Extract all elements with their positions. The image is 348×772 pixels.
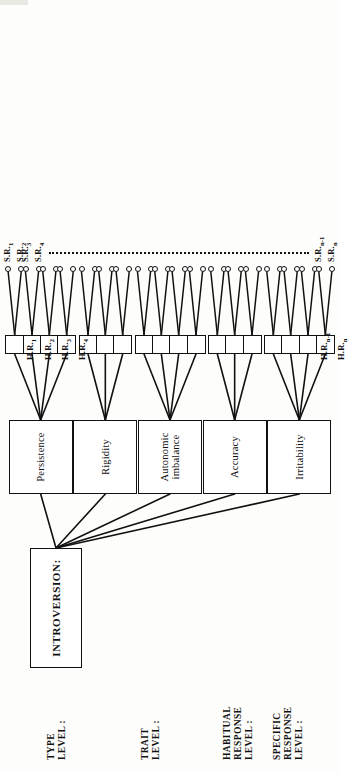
trait-node-irritability[interactable]: Irritability [267, 420, 331, 494]
specific-response-circle[interactable] [169, 266, 175, 272]
specific-response-label: S.R.3 [20, 243, 32, 262]
specific-response-label-subscript: n-1 [318, 236, 325, 246]
specific-response-label-subscript: 4 [37, 243, 44, 246]
habitual-response-label-subscript: n [341, 338, 348, 342]
specific-response-circle[interactable] [23, 266, 29, 272]
habitual-response-box[interactable] [5, 335, 24, 354]
type-level-label: TYPE LEVEL : [46, 690, 68, 760]
habitual-response-label-base: H.R. [43, 342, 53, 360]
habitual-response-label: H.R.1 [25, 339, 37, 360]
habitual-response-label-subscript: 3 [65, 339, 72, 342]
specific-response-circle[interactable] [299, 266, 305, 272]
habitual-response-box[interactable] [208, 335, 227, 354]
habitual-response-box[interactable] [96, 335, 115, 354]
trait-node-label: Autonomic imbalance [159, 432, 182, 481]
specific-response-label: S.R.4 [33, 243, 45, 262]
specific-response-circle[interactable] [5, 266, 11, 272]
trait-node-autonomic-imbalance[interactable]: Autonomic imbalance [138, 420, 202, 494]
habitual-response-box[interactable] [243, 335, 262, 354]
trait-node-label: Persistence [35, 432, 47, 481]
specific-response-label-subscript: n [331, 242, 338, 246]
specific-response-circle[interactable] [200, 266, 206, 272]
specific-response-circle[interactable] [264, 266, 270, 272]
habitual-response-label: H.R.3 [60, 339, 72, 360]
habitual-response-label: H.R.n-1 [319, 333, 331, 360]
specific-response-level-label: SPECIFIC RESPONSE LEVEL : [272, 682, 305, 760]
specific-response-circle[interactable] [208, 266, 214, 272]
trait-node-persistence[interactable]: Persistence [9, 420, 73, 494]
specific-response-circle[interactable] [243, 266, 249, 272]
specific-response-circle[interactable] [187, 266, 193, 272]
habitual-response-label-base: H.R. [319, 342, 329, 360]
habitual-response-box[interactable] [135, 335, 154, 354]
specific-response-circle[interactable] [135, 266, 141, 272]
specific-response-label-base: S.R. [20, 246, 30, 262]
habitual-response-label-base: H.R. [336, 342, 346, 360]
trait-node-label: Irritability [294, 434, 306, 480]
specific-response-label-base: S.R. [326, 246, 336, 262]
specific-response-circle[interactable] [152, 266, 158, 272]
specific-response-circle[interactable] [70, 266, 76, 272]
specific-response-circle[interactable] [281, 266, 287, 272]
specific-response-circle[interactable] [329, 266, 335, 272]
specific-response-label: S.R.n-1 [313, 236, 325, 262]
specific-response-circle[interactable] [256, 266, 262, 272]
specific-response-circle[interactable] [96, 266, 102, 272]
habitual-response-label-subscript: 4 [82, 339, 89, 342]
specific-response-label: S.R.1 [2, 243, 14, 262]
specific-response-circle[interactable] [225, 266, 231, 272]
specific-response-circle[interactable] [40, 266, 46, 272]
trait-node-label: Accuracy [229, 436, 241, 478]
specific-response-circle[interactable] [79, 266, 85, 272]
habitual-response-label-subscript: 1 [30, 339, 37, 342]
trait-level-label: TRAIT LEVEL : [140, 690, 162, 760]
specific-response-label-subscript: 1 [7, 243, 14, 246]
type-node-introversion[interactable]: INTROVERSION: [30, 548, 82, 668]
habitual-response-label-base: H.R. [60, 342, 70, 360]
trait-node-label: Rigidity [100, 439, 112, 475]
specific-response-label: S.R.n [326, 242, 338, 262]
habitual-response-label: H.R.4 [77, 339, 89, 360]
specific-response-label-base: S.R. [313, 246, 323, 262]
specific-response-circle[interactable] [113, 266, 119, 272]
specific-response-circle[interactable] [316, 266, 322, 272]
habitual-response-label-subscript: n-1 [323, 333, 330, 343]
specific-response-circle[interactable] [57, 266, 63, 272]
habitual-response-box[interactable] [152, 335, 171, 354]
specific-response-label-subscript: 3 [24, 243, 31, 246]
trait-node-rigidity[interactable]: Rigidity [73, 420, 137, 494]
ellipsis-dotted-line [49, 252, 309, 254]
habitual-response-label: H.R.n [336, 338, 348, 360]
habitual-response-box[interactable] [187, 335, 206, 354]
habitual-response-label-subscript: 2 [47, 339, 54, 342]
habitual-response-box[interactable] [113, 335, 132, 354]
habitual-response-box[interactable] [225, 335, 244, 354]
specific-response-circle[interactable] [126, 266, 132, 272]
habitual-response-label: H.R.2 [43, 339, 55, 360]
habitual-response-level-label: HABITUAL RESPONSE LEVEL : [222, 682, 255, 760]
habitual-response-label-base: H.R. [25, 342, 35, 360]
habitual-response-box[interactable] [281, 335, 300, 354]
habitual-response-box[interactable] [299, 335, 318, 354]
habitual-response-box[interactable] [264, 335, 283, 354]
trait-node-accuracy[interactable]: Accuracy [203, 420, 267, 494]
specific-response-label-base: S.R. [33, 246, 43, 262]
habitual-response-box[interactable] [169, 335, 188, 354]
habitual-response-label-base: H.R. [77, 342, 87, 360]
specific-response-label-base: S.R. [2, 246, 12, 262]
